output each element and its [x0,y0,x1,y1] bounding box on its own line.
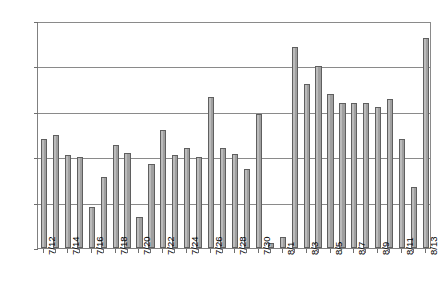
x-tick-mark [294,249,295,253]
y-tick-mark [34,204,38,205]
x-tick-mark [353,249,354,253]
plot-area [37,22,431,249]
gridline [38,22,431,23]
x-tick-mark [115,249,116,253]
x-tick-mark [246,249,247,253]
bar [77,157,83,248]
y-tick-mark [34,113,38,114]
bar [124,153,130,248]
x-tick-mark [55,249,56,253]
x-tick-mark [79,249,80,253]
x-tick-label: 8/13 [429,237,439,256]
bar [327,94,333,248]
x-tick-mark [401,249,402,253]
x-tick-mark [341,249,342,253]
bar [208,97,214,248]
y-tick-mark [34,67,38,68]
bar [256,114,262,248]
bar [232,154,238,248]
bar [399,139,405,248]
x-tick-mark [318,249,319,253]
x-tick-mark [330,249,331,253]
bar [148,164,154,248]
bar [172,155,178,248]
bar [375,107,381,248]
bar [292,47,298,248]
gridline [38,113,431,114]
bar [184,148,190,248]
x-tick-mark [377,249,378,253]
gridline [38,67,431,68]
x-tick-mark [150,249,151,253]
x-tick-mark [389,249,390,253]
x-tick-mark [127,249,128,253]
bar [113,145,119,248]
x-tick-mark [365,249,366,253]
x-tick-mark [234,249,235,253]
x-tick-mark [270,249,271,253]
x-axis: 7/127/147/167/187/207/227/247/267/287/30… [37,249,431,293]
y-tick-mark [34,22,38,23]
x-tick-mark [258,249,259,253]
bar [339,103,345,248]
x-tick-mark [67,249,68,253]
bar [41,139,47,248]
x-tick-mark [186,249,187,253]
x-tick-mark [413,249,414,253]
x-tick-mark [306,249,307,253]
x-tick-mark [210,249,211,253]
x-tick-mark [138,249,139,253]
bar [220,148,226,248]
bar [65,155,71,248]
x-tick-mark [162,249,163,253]
bar [351,103,357,248]
bar [423,38,429,248]
x-tick-mark [91,249,92,253]
bar [363,103,369,248]
y-tick-mark [34,158,38,159]
x-tick-mark [222,249,223,253]
bar [315,66,321,248]
bar [387,99,393,248]
bar [196,157,202,248]
x-tick-mark [103,249,104,253]
bar [53,135,59,249]
plot-right-border [430,22,431,248]
bar [304,84,310,248]
x-tick-mark [425,249,426,253]
x-tick-mark [198,249,199,253]
x-tick-mark [43,249,44,253]
x-tick-mark [174,249,175,253]
x-tick-mark [282,249,283,253]
bar [160,130,166,248]
